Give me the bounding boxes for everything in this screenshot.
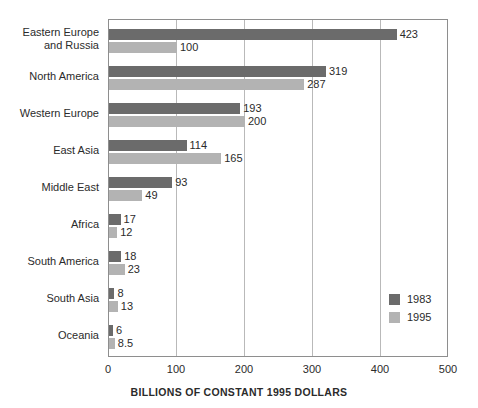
- bar-value-label: 319: [329, 63, 347, 79]
- bar-group: 9349: [109, 173, 447, 210]
- x-tick-label-100: 100: [146, 362, 206, 376]
- bar-group: 423100: [109, 25, 447, 62]
- bar-1995-4: [109, 190, 142, 201]
- bar-1983-5: [109, 214, 121, 225]
- bar-1995-7: [109, 301, 118, 312]
- category-label: Middle East: [0, 181, 99, 194]
- bar-chart: 4231003192871932001141659349171218238136…: [0, 0, 478, 408]
- bar-group: 193200: [109, 99, 447, 136]
- bar-value-label: 165: [224, 150, 242, 166]
- bar-value-label: 13: [121, 298, 133, 314]
- category-label: Africa: [0, 218, 99, 231]
- bar-1983-4: [109, 177, 172, 188]
- bar-value-label: 423: [400, 26, 418, 42]
- category-label: South Asia: [0, 292, 99, 305]
- category-label: South America: [0, 255, 99, 268]
- x-tick-label-300: 300: [282, 362, 342, 376]
- bar-group: 114165: [109, 136, 447, 173]
- bar-value-label: 200: [248, 113, 266, 129]
- category-label: East Asia: [0, 144, 99, 157]
- bar-value-label: 12: [120, 224, 132, 240]
- bar-1983-6: [109, 251, 121, 262]
- bar-1983-1: [109, 66, 326, 77]
- bar-value-label: 49: [145, 187, 157, 203]
- bar-group: 1712: [109, 210, 447, 247]
- bar-value-label: 287: [307, 76, 325, 92]
- bar-value-label: 93: [175, 174, 187, 190]
- x-tick-label-500: 500: [418, 362, 478, 376]
- category-label: Eastern Europe and Russia: [0, 26, 99, 52]
- bar-value-label: 114: [190, 137, 208, 153]
- category-label: Western Europe: [0, 107, 99, 120]
- bar-1995-5: [109, 227, 117, 238]
- x-tick-label-200: 200: [214, 362, 274, 376]
- bar-1983-8: [109, 325, 113, 336]
- x-tick-label-0: 0: [78, 362, 138, 376]
- legend-label-1995: 1995: [407, 311, 431, 323]
- bar-value-label: 100: [180, 39, 198, 55]
- chart-legend: 19831995: [389, 290, 431, 326]
- bar-1995-2: [109, 116, 245, 127]
- bar-1995-8: [109, 338, 115, 349]
- legend-swatch-1983: [389, 294, 400, 305]
- bar-1983-3: [109, 140, 187, 151]
- x-axis-title: BILLIONS OF CONSTANT 1995 DOLLARS: [0, 386, 478, 398]
- bar-1995-1: [109, 79, 304, 90]
- bar-group: 68.5: [109, 321, 447, 358]
- category-label: North America: [0, 70, 99, 83]
- category-label: Oceania: [0, 329, 99, 342]
- bar-value-label: 23: [128, 261, 140, 277]
- bar-group: 319287: [109, 62, 447, 99]
- bar-1995-0: [109, 42, 177, 53]
- bar-1983-0: [109, 29, 397, 40]
- legend-item: 1995: [389, 308, 431, 326]
- bar-1995-6: [109, 264, 125, 275]
- legend-item: 1983: [389, 290, 431, 308]
- legend-label-1983: 1983: [407, 293, 431, 305]
- bar-1995-3: [109, 153, 221, 164]
- legend-swatch-1995: [389, 312, 400, 323]
- x-tick-label-400: 400: [350, 362, 410, 376]
- bar-value-label: 8.5: [118, 335, 133, 351]
- bar-group: 1823: [109, 247, 447, 284]
- bar-1983-7: [109, 288, 114, 299]
- bar-1983-2: [109, 103, 240, 114]
